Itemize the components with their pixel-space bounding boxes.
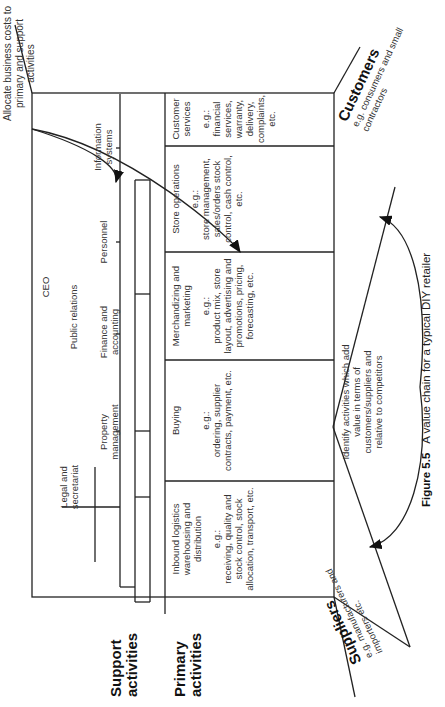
- function-information-systems: Information systems: [92, 112, 114, 182]
- support-activities-label: Support activities: [108, 607, 140, 697]
- col-eg: e.g.:: [211, 483, 222, 595]
- figure-title: A value chain for a typical DIY retailer: [420, 253, 432, 444]
- primary-col-buying: Buying e.g.: ordering, supplier contract…: [170, 362, 233, 479]
- primary-col-merchandizing: Merchandizing and marketing e.g.: produc…: [170, 254, 255, 358]
- legal-label: Legal and secretariat: [58, 447, 80, 527]
- public-relations-label: Public relations: [68, 277, 79, 357]
- col-examples: financial services, warranty, delivery, …: [211, 94, 277, 144]
- figure-caption: Figure 5.5 A value chain for a typical D…: [420, 253, 432, 507]
- col-eg: e.g.:: [200, 254, 211, 358]
- identify-activities-note: Identify activities which add value in t…: [340, 337, 384, 467]
- col-examples: receiving, quality and stock control, st…: [222, 483, 255, 595]
- col-examples: ordering, supplier contracts, payment, e…: [211, 362, 233, 479]
- allocate-costs-note: Allocate business costs to primary and s…: [2, 0, 37, 127]
- primary-col-customer-services: Customer services e.g.: financial servic…: [170, 94, 277, 144]
- function-finance: Finance and accounting: [98, 297, 120, 367]
- allocate-costs-text: Allocate business costs to primary and s…: [2, 6, 36, 121]
- col-eg: e.g.:: [200, 94, 211, 144]
- col-examples: store management, sales/orders stock con…: [200, 148, 244, 250]
- primary-col-inbound: Inbound logistics warehousing and distri…: [170, 483, 255, 595]
- col-title: Buying: [170, 362, 181, 479]
- col-title: Merchandizing and marketing: [170, 254, 192, 358]
- col-eg: e.g.:: [200, 362, 211, 479]
- col-title: Customer services: [170, 94, 192, 144]
- function-personnel: Personnel: [98, 212, 109, 272]
- col-eg: e.g.:: [189, 148, 200, 250]
- col-title: Inbound logistics warehousing and distri…: [170, 483, 203, 595]
- col-examples: product mix, store layout, advertising a…: [211, 254, 255, 358]
- figure-number: Figure 5.5: [420, 453, 432, 507]
- col-title: Store operations: [170, 148, 181, 250]
- primary-activities-label: Primary activities: [172, 607, 204, 697]
- value-chain-diagram: Allocate business costs to primary and s…: [0, 0, 445, 707]
- ceo-label: CEO: [40, 257, 51, 317]
- function-property: Property management: [98, 397, 120, 467]
- primary-col-store-ops: Store operations e.g.: store management,…: [170, 148, 244, 250]
